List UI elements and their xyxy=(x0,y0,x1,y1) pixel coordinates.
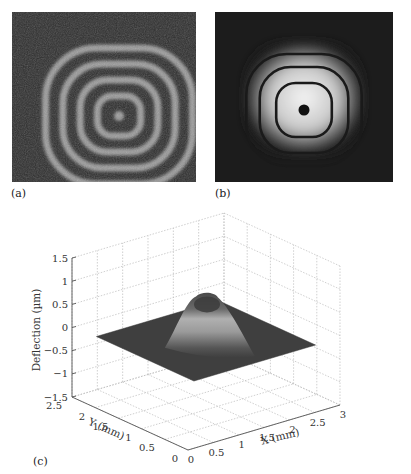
y-tick-label: 1 xyxy=(125,432,131,443)
x-tick-label: 0.5 xyxy=(208,447,224,458)
z-tick xyxy=(72,396,76,397)
x-tick-label: 3 xyxy=(340,409,346,420)
x-axis-label: X (mm) xyxy=(260,426,301,447)
z-tick-label: 0.5 xyxy=(52,299,68,310)
grid-line xyxy=(148,375,264,428)
z-tick-label: 0 xyxy=(62,322,68,333)
surface xyxy=(96,293,315,381)
x-tick-label: 1 xyxy=(238,439,244,450)
grid-line xyxy=(224,213,340,266)
z-tick xyxy=(72,350,76,351)
grid-line xyxy=(224,236,340,289)
grid-line xyxy=(224,259,340,312)
grid-line xyxy=(123,382,239,435)
z-tick xyxy=(72,280,76,281)
x-tick-label: 2.5 xyxy=(310,417,326,428)
y-tick-label: 2 xyxy=(79,411,85,422)
deflection-surface-chart: 1.510.50−0.5−1−1.500.511.522.500.511.522… xyxy=(0,0,411,474)
y-tick-label: 2.5 xyxy=(46,400,62,411)
grid-line xyxy=(142,384,294,429)
z-tick-label: −0.5 xyxy=(44,345,68,356)
x-tick-label: 0 xyxy=(188,454,194,465)
z-tick xyxy=(72,303,76,304)
z-tick xyxy=(72,373,76,374)
z-tick-label: 1.5 xyxy=(52,253,68,264)
z-tick-label: −1 xyxy=(53,368,68,379)
y-tick-label: 0.5 xyxy=(139,442,155,453)
z-axis-label: Deflection (µm) xyxy=(30,289,42,372)
z-tick xyxy=(72,327,76,328)
z-tick-label: 1 xyxy=(62,276,68,287)
y-tick-label: 0 xyxy=(172,453,178,464)
panel-label-c: (c) xyxy=(33,455,48,468)
bump-peak xyxy=(194,296,220,312)
z-tick xyxy=(72,257,76,258)
